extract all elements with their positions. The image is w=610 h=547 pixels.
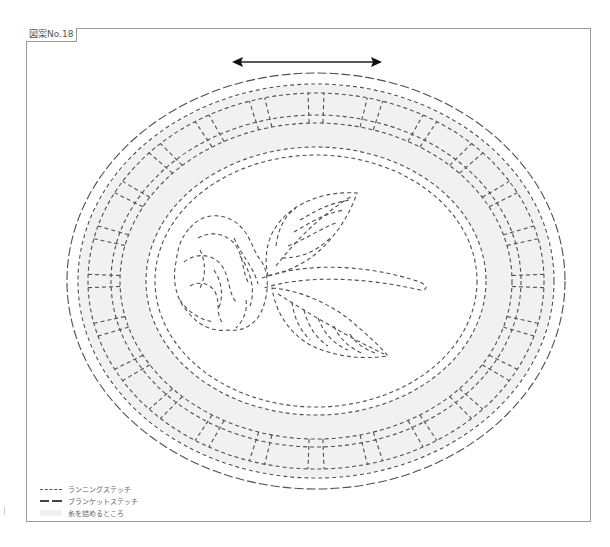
fill-swatch-icon (40, 510, 62, 516)
legend-item-running-stitch: ランニングステッチ (40, 483, 138, 495)
fill-area (0, 0, 610, 547)
long-dash-line-icon (40, 500, 62, 502)
legend-label: ランニングステッチ (68, 484, 131, 494)
legend-label: ブランケットステッチ (68, 496, 138, 506)
legend: ランニングステッチ ブランケットステッチ 糸を詰めるところ (40, 483, 138, 519)
legend-item-blanket-stitch: ブランケットステッチ (40, 495, 138, 507)
margin-mark (4, 507, 10, 515)
legend-item-fill-area: 糸を詰めるところ (40, 507, 138, 519)
dashed-line-icon (40, 489, 62, 490)
legend-label: 糸を詰めるところ (68, 508, 124, 518)
embroidery-pattern (0, 0, 610, 547)
